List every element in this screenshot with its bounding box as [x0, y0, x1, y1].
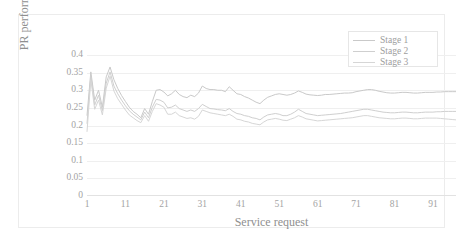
- x-axis-line: [87, 195, 456, 196]
- y-axis-tick-label: 0.1: [37, 156, 83, 166]
- y-axis-tick-label: 0: [37, 191, 83, 201]
- x-axis-tick-label: 51: [274, 199, 284, 209]
- plot-area: [87, 55, 456, 196]
- legend-item-label: Stage 3: [380, 57, 408, 67]
- x-axis-tick-label: 41: [236, 199, 246, 209]
- legend-swatch-icon: [353, 40, 375, 41]
- y-axis-tick-label: 0.4: [37, 50, 83, 60]
- legend-item[interactable]: Stage 3: [353, 57, 433, 67]
- chart-frame: PR performance 0.40.350.30.250.20.150.10…: [18, 14, 445, 228]
- legend-item[interactable]: Stage 1: [353, 35, 433, 45]
- x-axis-tick-labels: 1112131415161718191: [87, 199, 456, 213]
- x-axis-tick-label: 21: [159, 199, 169, 209]
- legend-swatch-icon: [353, 62, 375, 63]
- y-axis-tick-label: 0.35: [37, 68, 83, 78]
- x-axis-tick-label: 91: [428, 199, 438, 209]
- series-line: [87, 76, 456, 132]
- x-axis-tick-label: 31: [198, 199, 208, 209]
- legend-item-label: Stage 1: [380, 35, 408, 45]
- y-axis-tick-labels: 0.40.350.30.250.20.150.10.050: [33, 55, 83, 196]
- x-axis-tick-label: 61: [313, 199, 323, 209]
- chart-legend: Stage 1Stage 2Stage 3: [348, 31, 438, 67]
- y-axis-tick-label: 0.05: [37, 173, 83, 183]
- x-axis-title: Service request: [87, 215, 456, 230]
- y-axis-tick-label: 0.3: [37, 85, 83, 95]
- series-lines: [87, 55, 456, 196]
- y-axis-title: PR performance: [17, 0, 32, 71]
- x-axis-tick-label: 11: [121, 199, 130, 209]
- series-line: [87, 67, 456, 118]
- y-axis-tick-label: 0.15: [37, 138, 83, 148]
- y-axis-tick-label: 0.2: [37, 121, 83, 131]
- x-axis-tick-label: 1: [85, 199, 90, 209]
- y-axis-tick-label: 0.25: [37, 103, 83, 113]
- series-line: [87, 72, 456, 124]
- legend-item[interactable]: Stage 2: [353, 46, 433, 56]
- x-axis-tick-label: 81: [390, 199, 400, 209]
- x-axis-tick-label: 71: [351, 199, 361, 209]
- legend-item-label: Stage 2: [380, 46, 408, 56]
- legend-swatch-icon: [353, 51, 375, 52]
